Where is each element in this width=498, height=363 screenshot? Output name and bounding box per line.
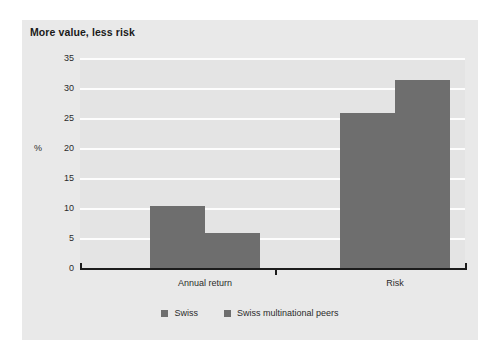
bar	[340, 113, 395, 268]
x-axis-category-label: Annual return	[178, 278, 232, 288]
y-axis-tick-label: 0	[69, 263, 74, 273]
plot-area	[80, 58, 465, 268]
y-axis-tick-label: 25	[64, 113, 74, 123]
y-axis-tick-label: 20	[64, 143, 74, 153]
y-axis-tick-label: 30	[64, 83, 74, 93]
y-axis-tick-label: 10	[64, 203, 74, 213]
chart-card: More value, less risk % 05101520253035 A…	[22, 20, 478, 340]
bar	[150, 206, 205, 268]
bar	[395, 80, 450, 268]
y-axis-tick-label: 5	[69, 233, 74, 243]
x-axis-line	[80, 268, 467, 270]
legend-label: Swiss	[174, 308, 198, 318]
y-axis-unit-label: %	[34, 58, 48, 268]
legend-label: Swiss multinational peers	[237, 308, 339, 318]
legend-swatch-icon	[224, 310, 231, 317]
legend-item[interactable]: Swiss	[161, 308, 198, 318]
x-axis-group-separator-tick	[275, 270, 277, 275]
chart-title: More value, less risk	[30, 26, 135, 38]
chart-legend: SwissSwiss multinational peers	[22, 308, 478, 318]
y-axis-tick-label: 35	[64, 53, 74, 63]
legend-item[interactable]: Swiss multinational peers	[224, 308, 339, 318]
x-axis-category-label: Risk	[386, 278, 404, 288]
y-axis-unit-text: %	[34, 143, 42, 153]
x-axis-right-cap	[465, 263, 467, 269]
gridline	[80, 58, 465, 60]
x-axis-left-cap	[80, 263, 82, 269]
legend-swatch-icon	[161, 310, 168, 317]
bar	[205, 233, 260, 268]
y-axis-tick-labels: 05101520253035	[50, 58, 74, 268]
y-axis-tick-label: 15	[64, 173, 74, 183]
